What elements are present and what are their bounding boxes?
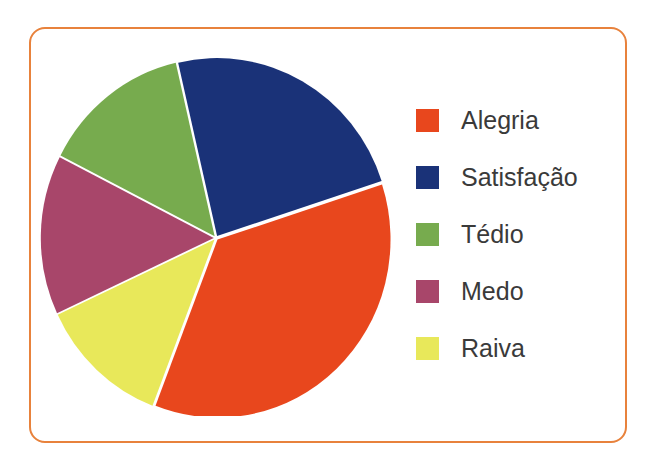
- pie-chart-svg: [40, 58, 392, 416]
- legend-item-label: Alegria: [461, 106, 539, 135]
- pie-chart-figure: AlegriaSatisfaçãoTédioMedoRaiva: [0, 0, 657, 471]
- legend-item[interactable]: Alegria: [416, 92, 616, 149]
- legend-item-label: Medo: [461, 277, 524, 306]
- legend-item-label: Satisfação: [461, 163, 578, 192]
- legend-color-swatch: [416, 280, 439, 303]
- legend-color-swatch: [416, 337, 439, 360]
- legend-item-label: Tédio: [461, 220, 524, 249]
- legend-color-swatch: [416, 223, 439, 246]
- legend-item[interactable]: Tédio: [416, 206, 616, 263]
- legend-item[interactable]: Satisfação: [416, 149, 616, 206]
- legend-item[interactable]: Raiva: [416, 320, 616, 377]
- legend-item-label: Raiva: [461, 334, 525, 363]
- screenshot-page: AlegriaSatisfaçãoTédioMedoRaiva: [0, 0, 657, 471]
- chart-legend: AlegriaSatisfaçãoTédioMedoRaiva: [416, 92, 616, 377]
- legend-color-swatch: [416, 109, 439, 132]
- legend-color-swatch: [416, 166, 439, 189]
- legend-item[interactable]: Medo: [416, 263, 616, 320]
- pie-slice-group: [41, 58, 391, 416]
